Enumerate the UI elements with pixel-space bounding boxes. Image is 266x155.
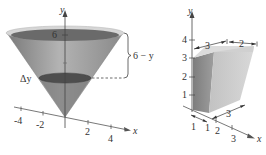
box-y-tick-3: 3 xyxy=(182,52,187,63)
cone-x-tick-neg2: -2 xyxy=(36,119,44,130)
cone-x-axis-label: x xyxy=(132,125,138,136)
box-x-tick-3: 3 xyxy=(231,133,236,144)
box-x-tick-2: 2 xyxy=(215,125,220,136)
cone-x-axis xyxy=(14,107,131,132)
dim-base-left-label: 1 xyxy=(191,121,196,132)
cone-x-tick-neg4: -4 xyxy=(14,115,22,126)
diagram-canvas: y 6 6 − y Δy -4 -2 2 4 x xyxy=(0,0,266,155)
box-y-tick-4: 4 xyxy=(182,34,187,45)
box-y-tick-2: 2 xyxy=(182,71,187,82)
cone-x-tick-4: 4 xyxy=(108,133,113,144)
box-side-face xyxy=(209,52,253,113)
box-figure: y 4 3 2 1 3 2 3 1 1 2 3 x xyxy=(182,5,262,144)
box-x-axis-label: x xyxy=(256,133,262,144)
cone-y-tick-6: 6 xyxy=(52,29,57,40)
box-y-axis-label: y xyxy=(187,5,193,16)
dim-top-right-label: 2 xyxy=(239,38,244,49)
box-y-tick-1: 1 xyxy=(182,89,187,100)
box-z-tick-1: 1 xyxy=(205,122,210,133)
delta-y-label: Δy xyxy=(20,73,31,84)
cone-figure: y 6 6 − y Δy -4 -2 2 4 x xyxy=(6,4,154,144)
cone-x-tick-2: 2 xyxy=(85,126,90,137)
dim-top-left-label: 3 xyxy=(205,40,210,51)
bracket-label: 6 − y xyxy=(133,50,154,61)
dim-bottom-label: 3 xyxy=(226,108,231,119)
cone-y-axis-label: y xyxy=(59,4,65,15)
